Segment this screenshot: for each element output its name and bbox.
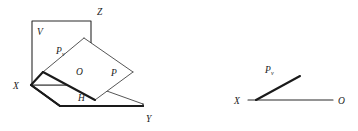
label-ground-line-left-x: X [233,96,241,106]
label-axis-z: Z [97,7,103,17]
label-vertical-plane-v: V [37,27,44,37]
label-vertical-trace-pv-sub: v [62,51,65,57]
label-oblique-plane-p: P [110,68,117,78]
label-axis-x: X [12,81,20,91]
label-vertical-trace-pv: P [55,46,62,56]
figure-root: Z V P v O P X H Y X P v O [0,0,358,131]
label-ground-line-right-o: O [338,96,345,106]
label-right-vertical-trace-pv-sub: v [271,70,274,76]
label-origin-o: O [76,67,83,77]
label-horizontal-plane-h: H [77,93,86,103]
label-right-vertical-trace-pv: P [264,65,271,75]
labels-layer: Z V P v O P X H Y X P v O [0,0,358,131]
label-axis-y: Y [146,114,153,124]
